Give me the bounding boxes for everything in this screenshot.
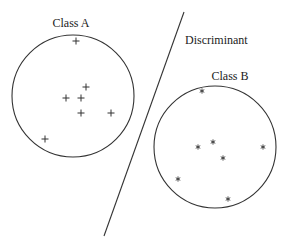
discriminant-group: Discriminant <box>104 12 248 236</box>
asterisk-marker-icon <box>226 196 231 201</box>
plus-marker-icon <box>42 136 49 143</box>
asterisk-marker-icon <box>211 139 216 144</box>
class-b-circle <box>154 86 276 208</box>
class-b-label: Class B <box>211 69 248 83</box>
discriminant-diagram: Class A Class B Discriminant <box>0 0 284 245</box>
class-a-circle <box>12 35 134 157</box>
asterisk-marker-icon <box>261 144 266 149</box>
asterisk-marker-icon <box>221 155 226 160</box>
class-a-group: Class A <box>12 16 134 157</box>
asterisk-marker-icon <box>196 144 201 149</box>
discriminant-line <box>104 12 184 236</box>
class-a-label: Class A <box>52 16 89 30</box>
plus-marker-icon <box>78 95 85 102</box>
class-b-points <box>176 88 266 201</box>
plus-marker-icon <box>108 110 115 117</box>
class-a-points <box>42 38 115 143</box>
plus-marker-icon <box>63 95 70 102</box>
class-b-group: Class B <box>154 69 276 208</box>
plus-marker-icon <box>78 110 85 117</box>
asterisk-marker-icon <box>200 88 205 93</box>
plus-marker-icon <box>73 38 80 45</box>
discriminant-label: Discriminant <box>185 33 248 47</box>
plus-marker-icon <box>83 84 90 91</box>
asterisk-marker-icon <box>176 176 181 181</box>
